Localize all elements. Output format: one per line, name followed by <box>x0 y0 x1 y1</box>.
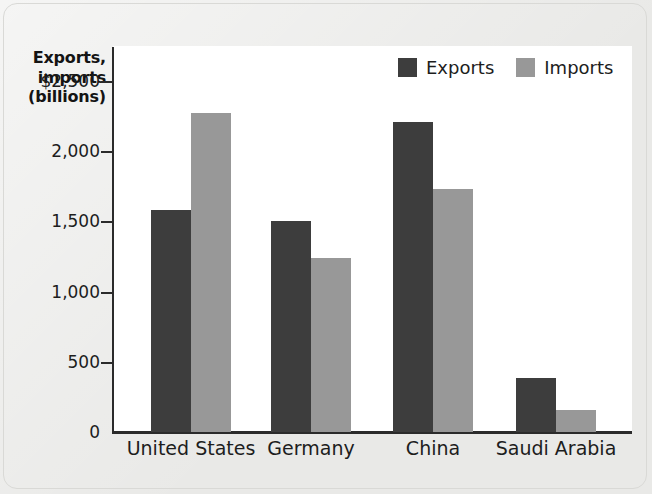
y-axis-tick <box>101 362 112 364</box>
legend-item-imports[interactable]: Imports <box>516 57 613 78</box>
y-axis-tick <box>101 221 112 223</box>
y-axis-tick-labels: 05001,0001,5002,000$2,500 <box>8 0 100 494</box>
chart-page: Exports, imports (billions) 05001,0001,5… <box>0 0 652 494</box>
x-axis-category-labels: United StatesGermanyChinaSaudi Arabia <box>113 437 632 471</box>
y-axis-tick-label: 500 <box>8 352 100 372</box>
y-axis-tick-label: $2,500 <box>8 71 100 91</box>
y-axis-tick-label: 1,000 <box>8 282 100 302</box>
y-axis-tick <box>101 292 112 294</box>
y-axis-tick-label: 1,500 <box>8 211 100 231</box>
x-axis-label-china: China <box>406 437 460 459</box>
x-axis-label-germany: Germany <box>267 437 354 459</box>
bar-chart: Exports, imports (billions) 05001,0001,5… <box>0 0 652 494</box>
y-axis-tick-label: 2,000 <box>8 141 100 161</box>
legend-label-exports: Exports <box>426 57 494 78</box>
legend-swatch-imports-icon <box>516 58 535 77</box>
legend-label-imports: Imports <box>544 57 613 78</box>
x-axis-label-saudi-arabia: Saudi Arabia <box>496 437 617 459</box>
y-axis-tick <box>101 81 112 83</box>
bar-exports-saudi-arabia <box>516 378 556 432</box>
bars-layer <box>113 46 632 432</box>
chart-legend: Exports Imports <box>398 57 613 78</box>
y-axis-tick-label: 0 <box>8 422 100 442</box>
bar-imports-china <box>433 189 473 432</box>
x-axis-label-united-states: United States <box>127 437 256 459</box>
y-axis-tick <box>101 151 112 153</box>
bar-exports-china <box>393 122 433 432</box>
legend-swatch-exports-icon <box>398 58 417 77</box>
bar-exports-united-states <box>151 210 191 432</box>
bar-imports-united-states <box>191 113 231 432</box>
bar-exports-germany <box>271 221 311 432</box>
legend-item-exports[interactable]: Exports <box>398 57 494 78</box>
bar-imports-saudi-arabia <box>556 410 596 432</box>
bar-imports-germany <box>311 258 351 432</box>
